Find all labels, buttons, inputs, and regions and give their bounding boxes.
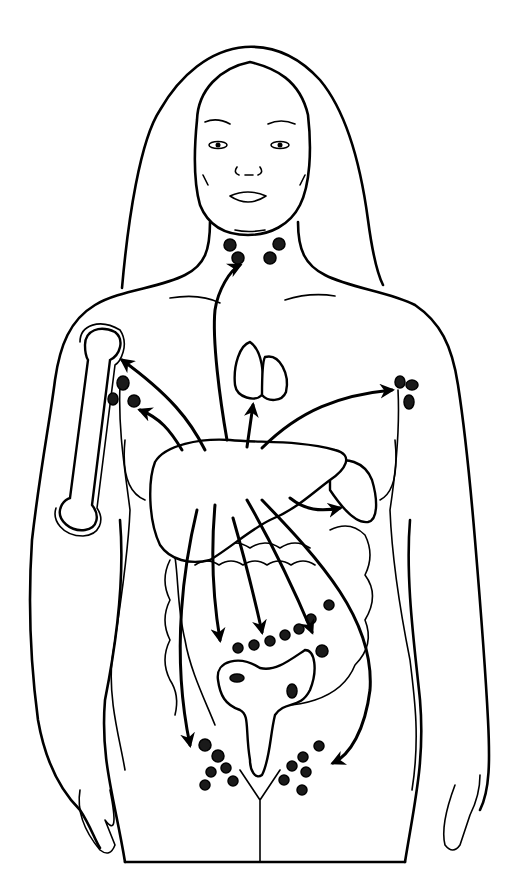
anatomy-figure [0,0,529,896]
mesenteric-lymph-nodes [233,600,334,657]
head-face [195,62,310,235]
hair-outline [122,47,383,288]
cervical-lymph-nodes [224,238,285,264]
pelvic-lymph-nodes-left [199,739,238,790]
pelvic-lymph-nodes-right [279,741,324,795]
humerus-bone [55,324,124,536]
hands [79,775,480,853]
thymus [235,342,287,400]
